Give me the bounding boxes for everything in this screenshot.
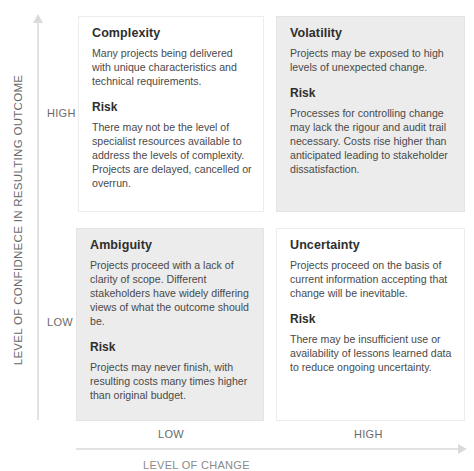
risk-heading: Risk	[92, 100, 252, 114]
quadrant-ambiguity: Ambiguity Projects proceed with a lack o…	[76, 228, 264, 421]
quadrant-title: Volatility	[290, 26, 453, 40]
y-tick-low: LOW	[47, 316, 73, 328]
quadrant-title: Uncertainty	[290, 238, 453, 252]
quadrant-description: Projects proceed with a lack of clarity …	[90, 258, 252, 328]
quadrant-uncertainty: Uncertainty Projects proceed on the basi…	[276, 228, 465, 421]
risk-text: There may not be the level of specialist…	[92, 120, 252, 190]
risk-heading: Risk	[90, 340, 252, 354]
x-axis-arrow-icon	[458, 444, 467, 454]
x-tick-high: HIGH	[354, 428, 383, 440]
quadrant-description: Projects may be exposed to high levels o…	[290, 46, 453, 74]
quadrant-description: Projects proceed on the basis of current…	[290, 258, 453, 300]
y-axis-line	[37, 22, 39, 420]
x-tick-low: LOW	[158, 428, 184, 440]
risk-text: Projects may never finish, with resultin…	[90, 360, 252, 402]
quadrant-volatility: Volatility Projects may be exposed to hi…	[276, 16, 465, 212]
risk-heading: Risk	[290, 86, 453, 100]
risk-text: There may be insufficient use or availab…	[290, 332, 453, 374]
quadrant-title: Complexity	[92, 26, 252, 40]
x-axis-label: LEVEL OF CHANGE	[143, 459, 250, 471]
risk-text: Processes for controlling change may lac…	[290, 106, 453, 176]
y-tick-high: HIGH	[47, 107, 76, 119]
quadrant-complexity: Complexity Many projects being delivered…	[78, 16, 264, 212]
y-axis-label: LEVEL OF CONFIDNECE IN RESULTING OUTCOME	[12, 75, 24, 366]
quadrant-title: Ambiguity	[90, 238, 252, 252]
x-axis-line	[76, 448, 460, 450]
risk-heading: Risk	[290, 312, 453, 326]
quadrant-description: Many projects being delivered with uniqu…	[92, 46, 252, 88]
